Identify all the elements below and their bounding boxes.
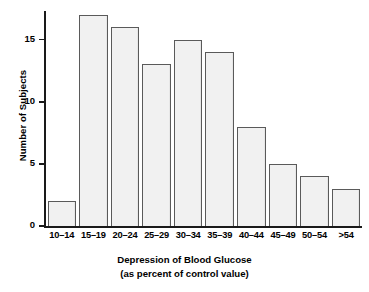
bar-cell xyxy=(172,11,204,226)
bar xyxy=(79,15,108,226)
bar xyxy=(237,127,266,226)
x-tick-label: 45–49 xyxy=(267,230,299,240)
y-tick-label: 5 xyxy=(30,158,35,168)
bar-cell xyxy=(236,11,268,226)
y-tick-10: 10 xyxy=(39,101,45,103)
x-tick-label: 40–44 xyxy=(236,230,268,240)
x-tick-label: 30–34 xyxy=(172,230,204,240)
bar-cell xyxy=(78,11,110,226)
x-tick-label: >54 xyxy=(330,230,362,240)
y-tick-label: 15 xyxy=(24,34,35,44)
bar-cell xyxy=(267,11,299,226)
histogram-figure: Number of Subjects 051015 10–1415–1920–2… xyxy=(0,0,369,292)
x-axis-title: Depression of Blood Glucose (as percent … xyxy=(0,253,369,281)
bar-cell xyxy=(109,11,141,226)
x-tick-label: 35–39 xyxy=(204,230,236,240)
bar xyxy=(205,52,234,226)
bar-cell xyxy=(46,11,78,226)
bar-cell xyxy=(141,11,173,226)
bar xyxy=(48,201,77,226)
plot-area: 051015 xyxy=(44,11,362,228)
y-tick-5: 5 xyxy=(39,163,45,165)
bar-series xyxy=(46,11,362,226)
x-tick-label: 20–24 xyxy=(109,230,141,240)
x-axis-title-line1: Depression of Blood Glucose xyxy=(0,253,369,267)
x-axis-tick-labels: 10–1415–1920–2425–2930–3435–3940–4445–49… xyxy=(46,230,364,240)
x-tick-label: 50–54 xyxy=(299,230,331,240)
y-tick-label: 0 xyxy=(30,220,35,230)
bar-cell xyxy=(299,11,331,226)
y-tick-15: 15 xyxy=(39,39,45,41)
bar xyxy=(142,64,171,226)
bar-cell xyxy=(330,11,362,226)
x-tick-label: 25–29 xyxy=(141,230,173,240)
x-tick-label: 10–14 xyxy=(46,230,78,240)
x-axis-title-line2: (as percent of control value) xyxy=(0,267,369,281)
bar xyxy=(111,27,140,226)
y-tick-label: 10 xyxy=(24,96,35,106)
bar-cell xyxy=(204,11,236,226)
y-tick-0: 0 xyxy=(39,225,45,227)
x-axis-line xyxy=(44,226,362,228)
y-axis-title: Number of Subjects xyxy=(17,46,28,186)
bar xyxy=(174,40,203,226)
bar xyxy=(269,164,298,226)
x-tick-label: 15–19 xyxy=(78,230,110,240)
bar xyxy=(300,176,329,226)
bar xyxy=(332,189,361,226)
